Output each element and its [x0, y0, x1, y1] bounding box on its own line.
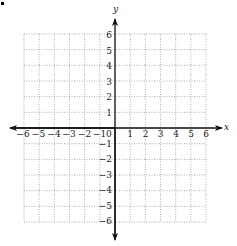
y-positive-tick-labels: 1 2 3 4 5 6 — [106, 30, 112, 118]
x-tick-label: 4 — [173, 129, 179, 139]
x-tick-label: 1 — [127, 129, 133, 139]
y-tick-label: −6 — [99, 216, 113, 226]
x-positive-tick-labels: 1 2 3 4 5 6 — [127, 129, 209, 139]
y-negative-tick-labels: −1 −2 −3 −4 −5 −6 — [99, 139, 113, 227]
y-tick-label: −4 — [99, 185, 113, 195]
x-tick-label: −4 — [47, 129, 61, 139]
x-tick-label: −2 — [78, 129, 91, 139]
x-tick-label: −6 — [16, 129, 30, 139]
y-tick-label: 5 — [106, 46, 112, 56]
x-tick-label: −5 — [32, 129, 46, 139]
y-tick-label: −1 — [99, 139, 112, 149]
y-tick-label: 4 — [106, 61, 112, 71]
x-negative-tick-labels: −6 −5 −4 −3 −2 −1 — [16, 129, 106, 139]
y-tick-label: −2 — [99, 154, 112, 164]
x-tick-label: −3 — [62, 129, 76, 139]
origin-label: 0 — [106, 129, 112, 139]
x-tick-label: 6 — [203, 129, 209, 139]
y-axis-label: y — [112, 4, 119, 14]
coordinate-plane: x y 0 −6 −5 −4 −3 −2 −1 1 2 3 4 5 6 1 2 … — [0, 0, 237, 246]
y-tick-label: 2 — [106, 92, 112, 102]
x-tick-label: 2 — [143, 129, 149, 139]
y-tick-label: 3 — [106, 77, 112, 87]
y-tick-label: −5 — [99, 201, 113, 211]
x-tick-label: 5 — [188, 129, 194, 139]
y-tick-label: −3 — [99, 170, 113, 180]
x-tick-label: −1 — [93, 129, 106, 139]
y-tick-label: 1 — [106, 108, 112, 118]
y-tick-label: 6 — [106, 30, 112, 40]
x-axis-label: x — [224, 122, 229, 132]
x-tick-label: 3 — [158, 129, 164, 139]
